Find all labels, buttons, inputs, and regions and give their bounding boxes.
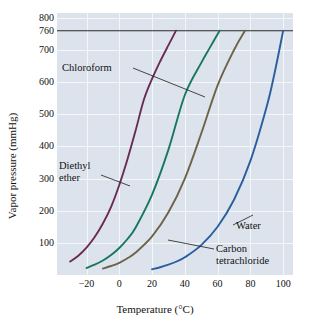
series-label-carbon-tetrachloride-line1: Carbon <box>216 243 269 255</box>
series-label-diethyl-ether: Diethyl ether <box>59 160 91 183</box>
y-tick-label: 800 <box>39 13 54 23</box>
plot-area <box>57 13 293 275</box>
curve-carbon-tetrachloride <box>103 31 245 269</box>
leader-line-carbon-tetrachloride <box>168 240 214 249</box>
y-tick-label: 100 <box>39 238 54 248</box>
y-tick-label: 700 <box>39 45 54 55</box>
curve-layer <box>57 13 293 275</box>
series-label-diethyl-ether-line1: Diethyl <box>59 160 91 172</box>
x-tick-label: 100 <box>263 279 303 289</box>
series-label-chloroform: Chloroform <box>62 62 112 74</box>
y-tick-label: 760 <box>39 26 54 36</box>
vapor-pressure-chart: 800760700600500400300200100 −20020406080… <box>0 0 310 332</box>
curve-water <box>152 31 283 270</box>
series-label-carbon-tetrachloride-line2: tetrachloride <box>216 255 269 267</box>
y-tick-label: 300 <box>39 174 54 184</box>
y-tick-label: 600 <box>39 77 54 87</box>
x-axis-ticks: −20020406080100 <box>0 279 310 295</box>
series-label-water: Water <box>236 220 261 232</box>
y-axis-title: Vapor pressure (mmHg) <box>6 56 18 276</box>
y-tick-label: 500 <box>39 109 54 119</box>
x-axis-title: Temperature (°C) <box>0 303 310 315</box>
series-label-diethyl-ether-line2: ether <box>59 172 91 184</box>
series-label-carbon-tetrachloride: Carbon tetrachloride <box>216 243 269 266</box>
leader-line-diethyl-ether <box>101 175 130 186</box>
y-tick-label: 200 <box>39 206 54 216</box>
leader-line-chloroform <box>133 68 205 97</box>
y-tick-label: 400 <box>39 141 54 151</box>
